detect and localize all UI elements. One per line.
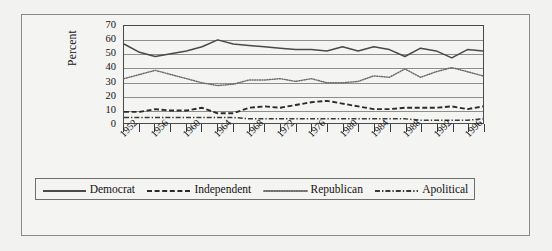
y-axis-tick-label: 50 bbox=[106, 48, 117, 58]
series-line-democrat bbox=[124, 40, 483, 58]
y-axis-tick-label: 40 bbox=[106, 62, 117, 72]
legend-label: Independent bbox=[194, 183, 251, 195]
series-line-independent bbox=[124, 101, 483, 113]
y-axis-tick-label: 20 bbox=[106, 91, 117, 101]
legend-entry: Republican bbox=[263, 183, 363, 195]
y-axis-tick-label: 30 bbox=[106, 77, 117, 87]
x-axis-tick bbox=[327, 124, 328, 132]
legend-swatch-independent bbox=[146, 183, 191, 195]
plot-area bbox=[123, 25, 484, 124]
legend-entry: Independent bbox=[146, 183, 251, 195]
plot-container: Percent 010203040506070 1952195619601964… bbox=[43, 20, 492, 155]
figure: Percent 010203040506070 1952195619601964… bbox=[0, 0, 552, 251]
legend-label: Republican bbox=[311, 183, 363, 195]
legend-entry: Democrat bbox=[42, 183, 135, 195]
y-axis-tick-labels: 010203040506070 bbox=[79, 20, 119, 129]
y-axis-tick-label: 70 bbox=[106, 20, 117, 30]
series-layer bbox=[124, 26, 483, 123]
legend-entry: Apolitical bbox=[374, 183, 468, 195]
x-axis-tick bbox=[170, 124, 171, 132]
series-line-apolitical bbox=[124, 117, 483, 120]
legend-label: Democrat bbox=[90, 183, 135, 195]
y-axis-title: Percent bbox=[66, 17, 78, 79]
y-axis-tick-label: 60 bbox=[106, 34, 117, 44]
x-axis-tick-labels: 1952195619601964196819721976198019841988… bbox=[123, 132, 484, 157]
x-axis-tick bbox=[233, 124, 234, 132]
legend-swatch-democrat bbox=[42, 183, 87, 195]
legend-label: Apolitical bbox=[422, 183, 468, 195]
x-axis-tick bbox=[484, 124, 485, 132]
y-axis-tick-label: 10 bbox=[106, 105, 117, 115]
y-axis-tick-label: 0 bbox=[111, 119, 116, 129]
legend-swatch-republican bbox=[263, 183, 308, 195]
legend: DemocratIndependentRepublicanApolitical bbox=[35, 178, 475, 200]
legend-swatch-apolitical bbox=[374, 183, 419, 195]
series-line-republican bbox=[124, 68, 483, 86]
